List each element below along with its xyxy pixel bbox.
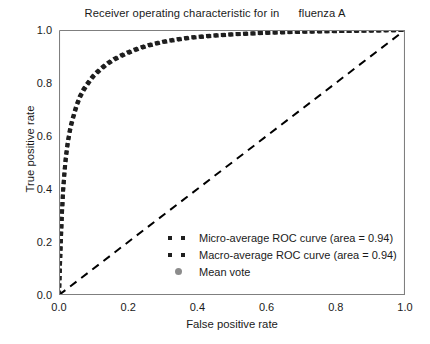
y-tick-label: 0.2 [12,236,52,248]
roc-chart-figure: Receiver operating characteristic for in… [0,0,430,344]
mean-vote-dot-icon [175,268,182,275]
chart-title: Receiver operating characteristic for in… [0,7,430,19]
y-tick-label: 0.0 [12,289,52,301]
x-tick-label: 1.0 [397,301,412,313]
y-axis-label: True positive rate [24,69,36,229]
y-tick-label: 1.0 [12,24,52,36]
legend-item[interactable]: Mean vote [163,263,411,280]
x-tick-label: 0.4 [190,301,205,313]
legend-item-label: Macro-average ROC curve (area = 0.94) [193,249,397,261]
dotted-line-sample-icon [167,236,189,240]
legend-item[interactable]: Micro-average ROC curve (area = 0.94) [163,229,411,246]
x-tick-label: 0.6 [259,301,274,313]
dotted-line-sample-icon [167,253,189,257]
x-tick-label: 0.2 [121,301,136,313]
legend-circle-marker-icon [163,265,193,279]
legend-item[interactable]: Macro-average ROC curve (area = 0.94) [163,246,411,263]
x-tick-label: 0.0 [51,301,66,313]
x-axis-label: False positive rate [59,318,405,330]
chart-legend: Micro-average ROC curve (area = 0.94)Mac… [163,229,411,280]
legend-dotted-line-icon [163,231,193,245]
x-tick-label: 0.8 [328,301,343,313]
legend-dotted-line-icon [163,248,193,262]
legend-item-label: Micro-average ROC curve (area = 0.94) [193,232,393,244]
legend-item-label: Mean vote [193,266,250,278]
